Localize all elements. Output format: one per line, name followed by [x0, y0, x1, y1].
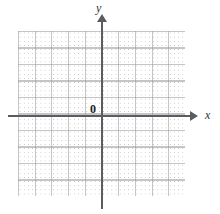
- coordinate-plane-figure: y x 0: [0, 0, 220, 214]
- x-axis-label: x: [205, 109, 210, 121]
- y-axis-label: y: [96, 2, 101, 14]
- origin-label: 0: [90, 103, 96, 115]
- x-axis: [8, 115, 192, 117]
- y-axis: [101, 21, 103, 209]
- y-axis-arrowhead-icon: [97, 14, 107, 22]
- x-axis-arrowhead-icon: [190, 111, 198, 121]
